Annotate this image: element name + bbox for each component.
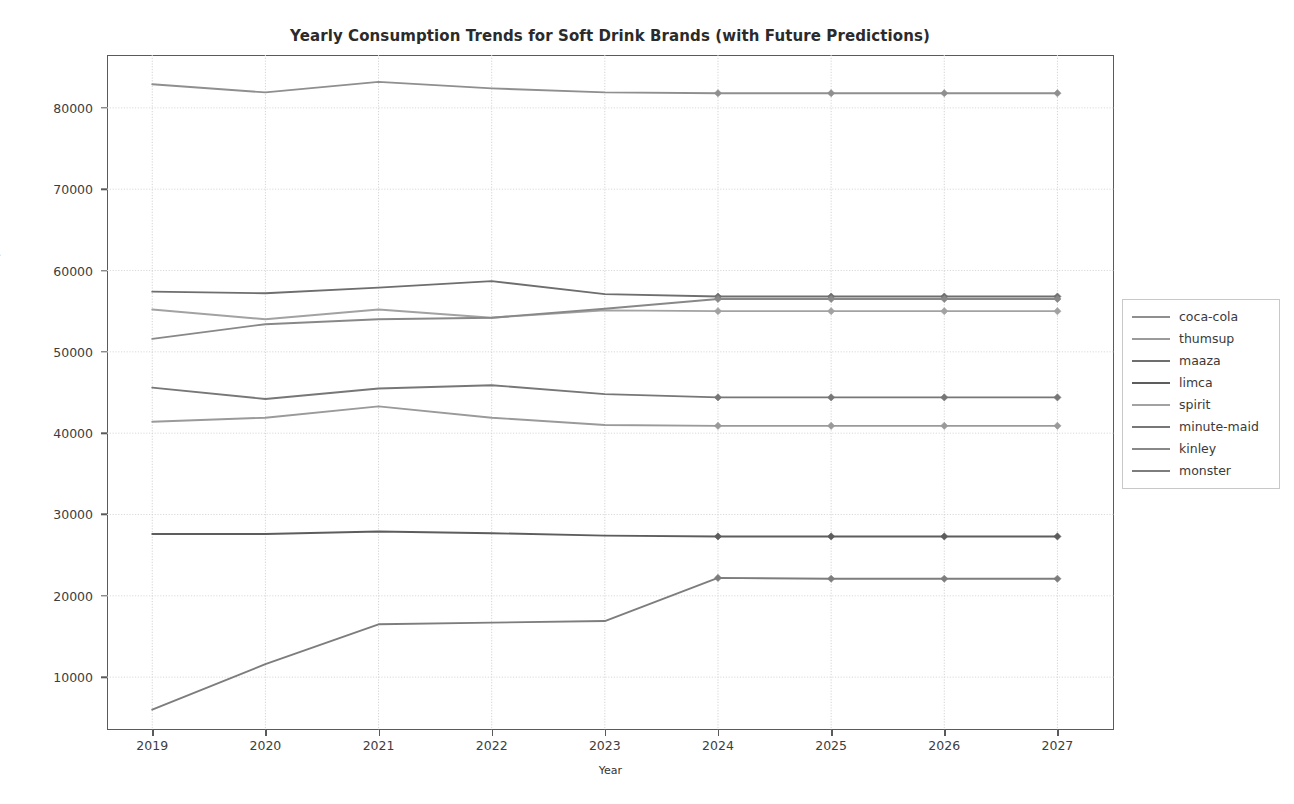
x-tick-mark [152, 730, 153, 736]
prediction-marker-monster [714, 574, 721, 581]
legend-swatch-limca [1132, 382, 1170, 384]
chart-root: Yearly Consumption Trends for Soft Drink… [0, 0, 1294, 804]
prediction-marker-limca [714, 533, 721, 540]
x-axis-label: Year [107, 764, 1114, 777]
x-tick-mark [379, 730, 380, 736]
legend-item-limca[interactable]: limca [1129, 372, 1273, 394]
prediction-marker-thumsup [828, 422, 835, 429]
legend-swatch-minute-maid [1132, 426, 1170, 428]
legend-item-kinley[interactable]: kinley [1129, 438, 1273, 460]
prediction-marker-minute-maid [714, 394, 721, 401]
prediction-marker-coca-cola [828, 90, 835, 97]
y-tick-label: 70000 [53, 182, 93, 197]
y-tick-mark [101, 351, 107, 352]
y-tick-mark [101, 595, 107, 596]
y-axis-ticks: 1000020000300004000050000600007000080000 [0, 0, 107, 804]
prediction-marker-spirit [714, 308, 721, 315]
y-tick-label: 20000 [53, 588, 93, 603]
y-tick-mark [101, 514, 107, 515]
x-tick-label: 2022 [476, 738, 508, 753]
y-tick-mark [101, 107, 107, 108]
x-tick-label: 2027 [1042, 738, 1074, 753]
prediction-marker-minute-maid [941, 394, 948, 401]
legend-swatch-kinley [1132, 448, 1170, 450]
legend-label: coca-cola [1179, 311, 1238, 324]
y-tick-mark [101, 676, 107, 677]
series-line-maaza [152, 281, 1057, 296]
x-tick-mark [718, 730, 719, 736]
x-tick-label: 2021 [363, 738, 395, 753]
chart-legend: coca-colathumsupmaazalimcaspiritminute-m… [1122, 299, 1280, 489]
prediction-marker-limca [828, 533, 835, 540]
x-tick-label: 2026 [928, 738, 960, 753]
prediction-marker-monster [941, 575, 948, 582]
legend-item-monster[interactable]: monster [1129, 460, 1273, 482]
x-tick-label: 2019 [136, 738, 168, 753]
legend-label: monster [1179, 465, 1231, 478]
y-tick-label: 80000 [53, 100, 93, 115]
legend-label: spirit [1179, 399, 1210, 412]
y-tick-mark [101, 188, 107, 189]
legend-label: thumsup [1179, 333, 1234, 346]
prediction-marker-spirit [1054, 308, 1061, 315]
prediction-marker-coca-cola [941, 90, 948, 97]
x-tick-label: 2025 [815, 738, 847, 753]
legend-swatch-thumsup [1132, 338, 1170, 340]
y-axis-label: Consumption [0, 185, 1, 345]
prediction-marker-spirit [828, 308, 835, 315]
legend-label: minute-maid [1179, 421, 1259, 434]
x-tick-label: 2023 [589, 738, 621, 753]
y-tick-label: 60000 [53, 263, 93, 278]
legend-swatch-maaza [1132, 360, 1170, 362]
legend-item-maaza[interactable]: maaza [1129, 350, 1273, 372]
x-tick-mark [265, 730, 266, 736]
x-tick-label: 2020 [249, 738, 281, 753]
legend-label: maaza [1179, 355, 1221, 368]
x-tick-label: 2024 [702, 738, 734, 753]
legend-item-minute-maid[interactable]: minute-maid [1129, 416, 1273, 438]
legend-item-coca-cola[interactable]: coca-cola [1129, 306, 1273, 328]
legend-item-thumsup[interactable]: thumsup [1129, 328, 1273, 350]
y-tick-label: 40000 [53, 426, 93, 441]
plot-canvas [107, 55, 1114, 730]
prediction-marker-limca [941, 533, 948, 540]
prediction-marker-monster [1054, 575, 1061, 582]
legend-item-spirit[interactable]: spirit [1129, 394, 1273, 416]
prediction-marker-coca-cola [714, 90, 721, 97]
legend-swatch-coca-cola [1132, 316, 1170, 318]
prediction-marker-thumsup [714, 422, 721, 429]
prediction-marker-coca-cola [1054, 90, 1061, 97]
y-tick-label: 30000 [53, 507, 93, 522]
legend-label: kinley [1179, 443, 1216, 456]
prediction-marker-thumsup [941, 422, 948, 429]
x-tick-mark [1057, 730, 1058, 736]
x-tick-mark [605, 730, 606, 736]
prediction-marker-minute-maid [828, 394, 835, 401]
series-line-spirit [152, 310, 1057, 320]
legend-swatch-monster [1132, 470, 1170, 472]
legend-label: limca [1179, 377, 1213, 390]
chart-title: Yearly Consumption Trends for Soft Drink… [0, 27, 1220, 45]
prediction-marker-spirit [941, 308, 948, 315]
y-tick-mark [101, 270, 107, 271]
prediction-marker-minute-maid [1054, 394, 1061, 401]
prediction-marker-monster [828, 575, 835, 582]
prediction-marker-thumsup [1054, 422, 1061, 429]
x-tick-mark [944, 730, 945, 736]
y-tick-label: 10000 [53, 670, 93, 685]
legend-swatch-spirit [1132, 404, 1170, 406]
y-tick-mark [101, 432, 107, 433]
prediction-marker-limca [1054, 533, 1061, 540]
x-tick-mark [492, 730, 493, 736]
y-tick-label: 50000 [53, 344, 93, 359]
x-tick-mark [831, 730, 832, 736]
